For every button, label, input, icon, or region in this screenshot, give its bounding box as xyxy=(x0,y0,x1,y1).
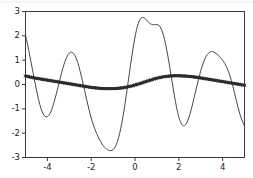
y-tick-label: 1 xyxy=(2,56,20,65)
y-tick-label: -1 xyxy=(2,104,20,113)
x-tick-label: 2 xyxy=(169,163,189,172)
x-tick-label: -4 xyxy=(37,163,57,172)
y-tick-label: 2 xyxy=(2,31,20,40)
series-trend-markers xyxy=(24,74,246,90)
y-tick-label: -3 xyxy=(2,153,20,162)
y-tick-label: -2 xyxy=(2,129,20,138)
plot-area xyxy=(0,0,253,178)
y-tick-label: 0 xyxy=(2,80,20,89)
y-tick-label: 3 xyxy=(2,7,20,16)
x-tick-label: 0 xyxy=(125,163,145,172)
x-tick-label: -2 xyxy=(81,163,101,172)
figure-canvas: -3-2-10123 -4-2024 xyxy=(0,0,253,178)
x-tick-label: 4 xyxy=(213,163,233,172)
